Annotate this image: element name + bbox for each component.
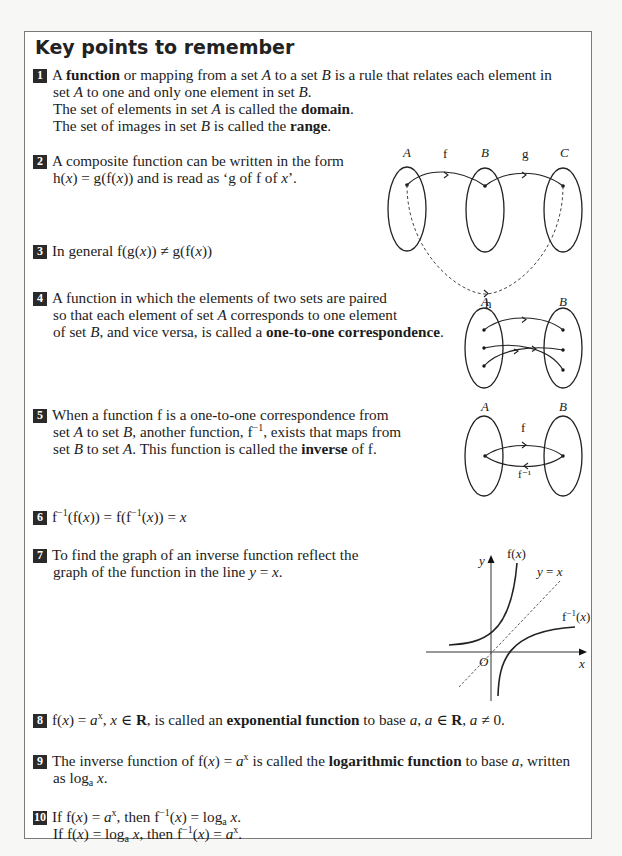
set-a-label: A — [480, 294, 489, 309]
point-8: 8f(x) = ax, x ∈ R, is called an exponent… — [33, 711, 505, 728]
set-c-label: C — [560, 145, 569, 160]
set-b-label: B — [559, 399, 567, 414]
point-5: 5When a function f is a one-to-one corre… — [33, 406, 401, 457]
point-text-line: of set B, and vice versa, is called a on… — [33, 323, 444, 340]
f-inverse-curve-label: f−1(x) — [562, 608, 590, 624]
inverse-function-diagram: A B f f⁻¹ — [465, 398, 595, 498]
composite-function-diagram: A B C f g h — [361, 144, 601, 314]
point-text-line: 5When a function f is a one-to-one corre… — [33, 406, 401, 423]
origin-label: O — [479, 654, 489, 669]
point-number-badge: 9 — [33, 755, 47, 769]
point-text-line: set A to one and only one element in set… — [33, 83, 552, 100]
point-number-badge: 3 — [33, 245, 47, 259]
key-points-box: Key points to remember 1A function or ma… — [24, 31, 592, 839]
point-number-badge: 1 — [33, 69, 47, 83]
point-text-line: 7To find the graph of an inverse functio… — [33, 546, 358, 563]
inverse-graph: y x O y = x f(x) f−1(x) — [421, 543, 601, 703]
point-text-line: 8f(x) = ax, x ∈ R, is called an exponent… — [33, 711, 505, 728]
point-number-badge: 10 — [33, 811, 47, 825]
point-1: 1A function or mapping from a set A to a… — [33, 66, 552, 134]
point-text-line: graph of the function in the line y = x. — [33, 563, 358, 580]
point-text-line: If f(x) = loga x, then f−1(x) = ax. — [33, 825, 242, 842]
point-7: 7To find the graph of an inverse functio… — [33, 546, 358, 580]
set-b-label: B — [559, 294, 567, 309]
point-number-badge: 6 — [33, 511, 47, 525]
point-text-line: 10If f(x) = ax, then f−1(x) = loga x. — [33, 808, 242, 825]
set-b-label: B — [481, 145, 489, 160]
point-3: 3In general f(g(x)) ≠ g(f(x)) — [33, 242, 212, 259]
point-number-badge: 2 — [33, 155, 47, 169]
f-curve-label: f(x) — [507, 546, 526, 561]
point-number-badge: 7 — [33, 549, 47, 563]
point-text-line: 1A function or mapping from a set A to a… — [33, 66, 552, 83]
point-text-line: The set of elements in set A is called t… — [33, 100, 552, 117]
y-axis-label: y — [477, 553, 485, 568]
point-text-line: The set of images in set B is called the… — [33, 117, 552, 134]
point-number-badge: 5 — [33, 409, 47, 423]
f-inverse-arrow-label: f⁻¹ — [518, 468, 531, 480]
point-2: 2A composite function can be written in … — [33, 152, 344, 186]
point-text-line: set B to set A. This function is called … — [33, 440, 401, 457]
line-y-equals-x-label: y = x — [535, 564, 563, 579]
page-title: Key points to remember — [35, 36, 294, 58]
point-10: 10If f(x) = ax, then f−1(x) = loga x.If … — [33, 808, 242, 842]
f-arrow-label: f — [443, 146, 448, 161]
f-arrow-label: f — [521, 420, 526, 435]
point-text-line: 9The inverse function of f(x) = ax is ca… — [33, 752, 570, 769]
point-number-badge: 4 — [33, 292, 47, 306]
point-text-line: h(x) = g(f(x)) and is read as ‘g of f of… — [33, 169, 344, 186]
g-arrow-label: g — [522, 146, 529, 161]
x-axis-label: x — [578, 656, 585, 671]
point-text-line: 2A composite function can be written in … — [33, 152, 344, 169]
point-number-badge: 8 — [33, 714, 47, 728]
point-text-line: as loga x. — [33, 769, 570, 786]
point-text-line: 3In general f(g(x)) ≠ g(f(x)) — [33, 242, 212, 259]
point-9: 9The inverse function of f(x) = ax is ca… — [33, 752, 570, 786]
point-text-line: 6f−1(f(x)) = f(f−1(x)) = x — [33, 508, 187, 525]
set-a-label: A — [402, 145, 411, 160]
point-6: 6f−1(f(x)) = f(f−1(x)) = x — [33, 508, 187, 525]
one-to-one-diagram: A B — [465, 293, 595, 383]
set-a-label: A — [480, 399, 489, 414]
point-text-line: set A to set B, another function, f−1, e… — [33, 423, 401, 440]
